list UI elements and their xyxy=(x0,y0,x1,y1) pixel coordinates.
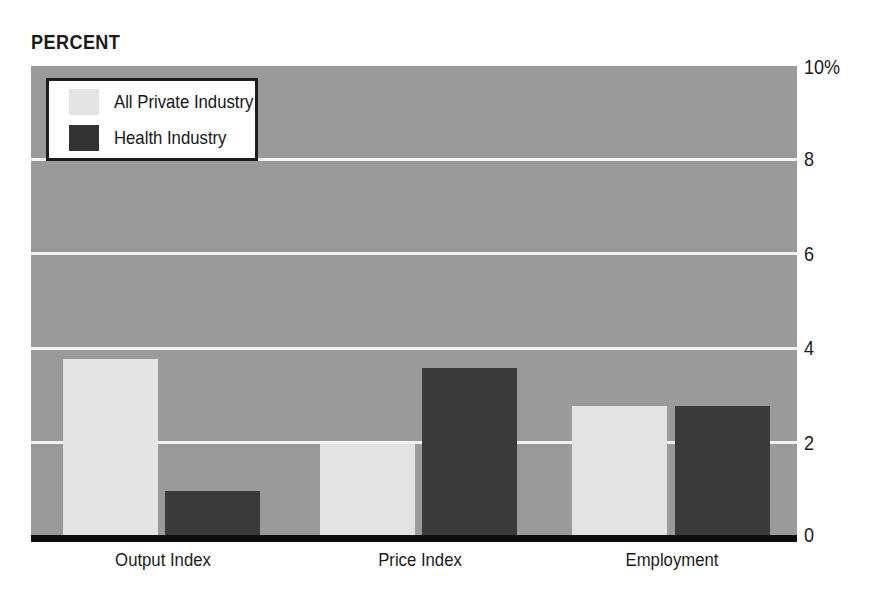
y-axis-label-6: 6 xyxy=(804,243,814,266)
x-axis-line xyxy=(31,535,797,542)
legend-label-all-private-industry: All Private Industry xyxy=(114,91,253,113)
legend-swatch-icon-all-private-industry xyxy=(69,89,99,115)
y-axis-label-4: 4 xyxy=(804,337,814,360)
legend-swatch-icon-health-industry xyxy=(69,125,99,151)
x-axis-label-employment: Employment xyxy=(584,549,760,571)
x-axis-label-output-index: Output Index xyxy=(75,549,251,571)
bar-all-private-industry-price-index xyxy=(320,444,415,538)
bar-health-industry-output-index xyxy=(165,491,260,538)
y-axis-label-10: 10% xyxy=(804,56,840,79)
chart-title: PERCENT xyxy=(31,30,120,54)
y-axis-label-8: 8 xyxy=(804,148,814,171)
legend-item-all-private-industry: All Private Industry xyxy=(69,87,272,117)
bar-all-private-industry-output-index xyxy=(63,359,158,538)
y-axis-label-2: 2 xyxy=(804,432,814,455)
legend-label-health-industry: Health Industry xyxy=(114,127,226,149)
bar-health-industry-price-index xyxy=(422,368,517,538)
bar-chart: PERCENT All Private Industry xyxy=(0,0,879,598)
bar-health-industry-employment xyxy=(675,406,770,538)
y-axis-label-0: 0 xyxy=(804,524,814,547)
legend-item-health-industry: Health Industry xyxy=(69,123,242,153)
gridline-4 xyxy=(31,347,797,350)
x-axis-label-price-index: Price Index xyxy=(332,549,508,571)
plot-area: All Private Industry Health Industry xyxy=(31,66,797,538)
gridline-6 xyxy=(31,252,797,255)
legend: All Private Industry Health Industry xyxy=(46,78,258,161)
bar-all-private-industry-employment xyxy=(572,406,667,538)
